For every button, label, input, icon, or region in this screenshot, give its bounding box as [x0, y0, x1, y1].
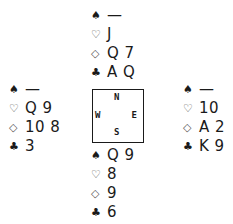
east-clubs: ♣K 9 [183, 137, 225, 156]
east-spades: ♠— [183, 80, 225, 99]
compass-south: S [114, 127, 119, 137]
spade-icon: ♠ [91, 6, 107, 25]
compass-north: N [114, 92, 119, 102]
north-hearts: ♡J [91, 25, 135, 44]
south-diamonds: ◇9 [91, 184, 135, 203]
diamond-icon: ◇ [91, 44, 107, 63]
north-clubs: ♣A Q [91, 63, 135, 82]
west-hearts: ♡Q 9 [9, 99, 60, 118]
east-hand: ♠— ♡10 ◇A 2 ♣K 9 [183, 80, 225, 156]
club-icon: ♣ [9, 137, 25, 156]
compass-west: W [95, 110, 100, 120]
heart-icon: ♡ [9, 99, 25, 118]
east-hearts: ♡10 [183, 99, 225, 118]
compass-box: N W E S [92, 89, 144, 143]
spade-icon: ♠ [91, 146, 107, 165]
heart-icon: ♡ [91, 165, 107, 184]
heart-icon: ♡ [183, 99, 199, 118]
east-diamonds: ◇A 2 [183, 118, 225, 137]
club-icon: ♣ [91, 203, 107, 222]
south-clubs: ♣6 [91, 203, 135, 222]
south-hand: ♠Q 9 ♡8 ◇9 ♣6 [91, 146, 135, 222]
compass-east: E [132, 110, 137, 120]
diamond-icon: ◇ [9, 118, 25, 137]
west-diamonds: ◇10 8 [9, 118, 60, 137]
club-icon: ♣ [91, 63, 107, 82]
north-spades: ♠— [91, 6, 135, 25]
west-clubs: ♣3 [9, 137, 60, 156]
north-hand: ♠— ♡J ◇Q 7 ♣A Q [91, 6, 135, 82]
south-hearts: ♡8 [91, 165, 135, 184]
west-spades: ♠— [9, 80, 60, 99]
diamond-icon: ◇ [183, 118, 199, 137]
club-icon: ♣ [183, 137, 199, 156]
south-spades: ♠Q 9 [91, 146, 135, 165]
west-hand: ♠— ♡Q 9 ◇10 8 ♣3 [9, 80, 60, 156]
north-diamonds: ◇Q 7 [91, 44, 135, 63]
spade-icon: ♠ [9, 80, 25, 99]
heart-icon: ♡ [91, 25, 107, 44]
spade-icon: ♠ [183, 80, 199, 99]
diamond-icon: ◇ [91, 184, 107, 203]
